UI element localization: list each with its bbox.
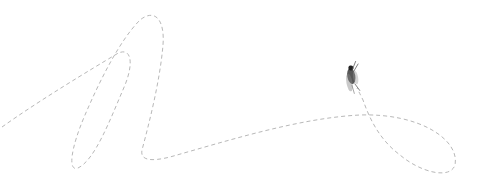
flight-path-canvas	[0, 0, 487, 187]
flight-path	[2, 15, 455, 173]
fly-icon	[343, 61, 363, 95]
fly-flight-illustration	[0, 0, 487, 187]
